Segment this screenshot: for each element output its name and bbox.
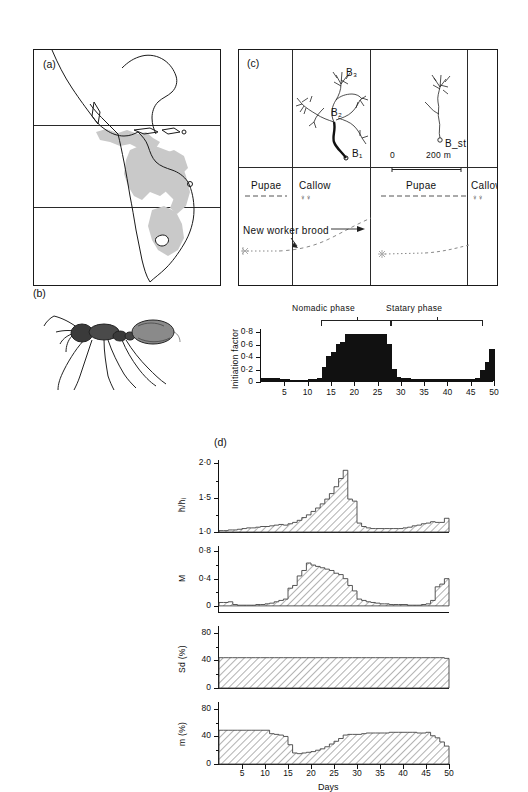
scale-bar-start: 0 bbox=[390, 150, 395, 160]
plot-area: 1·01·52·0h̄/h̄ᵢ bbox=[218, 460, 449, 533]
area-path bbox=[219, 658, 449, 688]
y-axis-tick-label: 0·4 bbox=[185, 573, 211, 583]
scale-bar-end: 200 m bbox=[426, 150, 451, 160]
x-axis-tick bbox=[284, 381, 285, 386]
y-axis-tick-label: 0·6 bbox=[227, 339, 253, 349]
x-axis-tick bbox=[471, 381, 472, 386]
panel-d-colony-metrics: (d) 1·01·52·0h̄/h̄ᵢ 00·40·8M 04080Sd (%)… bbox=[150, 440, 500, 770]
chart-m-percent: 040805101520253035404550Daysm (%) bbox=[218, 702, 448, 764]
x-axis-tick bbox=[494, 381, 495, 386]
y-axis-tick bbox=[214, 736, 219, 737]
x-axis-tick-label: 40 bbox=[437, 387, 457, 397]
y-axis-tick bbox=[214, 551, 219, 552]
y-axis-tick bbox=[256, 357, 261, 358]
raid-label-b3: B₃ bbox=[346, 67, 357, 78]
y-axis-tick-label: 80 bbox=[185, 627, 211, 637]
x-axis-label: Days bbox=[318, 782, 339, 792]
y-axis-label: h̄/h̄ᵢ bbox=[177, 497, 187, 511]
y-axis-tick bbox=[214, 463, 219, 464]
y-axis-tick bbox=[214, 688, 219, 689]
ant-drawing bbox=[38, 300, 188, 395]
nomadic-main-trail bbox=[333, 122, 346, 158]
initiation-factor-chart: Initiation factor 00·20·40·60·8510152025… bbox=[218, 303, 496, 403]
plot-area: 00·40·8M bbox=[218, 546, 449, 613]
x-axis-tick bbox=[354, 381, 355, 386]
x-axis-tick-label: 50 bbox=[484, 387, 504, 397]
x-axis-tick-label: 25 bbox=[368, 387, 388, 397]
y-axis-minor-tick bbox=[216, 723, 219, 724]
x-axis-tick bbox=[447, 381, 448, 386]
panel-a-tag: (a) bbox=[43, 58, 56, 70]
scale-bar-line bbox=[391, 166, 463, 173]
y-axis-tick bbox=[256, 345, 261, 346]
area-series bbox=[219, 460, 449, 532]
x-axis-tick-label: 30 bbox=[347, 768, 367, 778]
y-axis-minor-tick bbox=[216, 481, 219, 482]
y-axis-label: m (%) bbox=[177, 722, 187, 746]
x-axis-tick bbox=[378, 381, 379, 386]
y-axis-tick-label: 2·0 bbox=[185, 457, 211, 467]
map-geometry bbox=[34, 50, 220, 285]
y-axis-tick bbox=[214, 606, 219, 607]
y-axis-tick bbox=[214, 633, 219, 634]
raid-label-b1: B₁ bbox=[352, 148, 363, 159]
x-axis-tick-label: 35 bbox=[370, 768, 390, 778]
y-axis-tick bbox=[214, 579, 219, 580]
area-series bbox=[219, 702, 449, 764]
bracket-nub bbox=[357, 317, 358, 321]
y-axis-tick-label: 80 bbox=[185, 703, 211, 713]
nomadic-phase-label: Nomadic phase bbox=[292, 303, 355, 313]
chart-Sd-percent: 04080Sd (%) bbox=[218, 626, 448, 688]
x-axis-tick bbox=[401, 381, 402, 386]
panel-c-tag: (c) bbox=[247, 57, 259, 69]
plot-area: 040805101520253035404550Daysm (%) bbox=[218, 702, 449, 765]
statary-phase-bracket bbox=[390, 320, 483, 326]
y-axis-minor-tick bbox=[216, 592, 219, 593]
y-axis-tick-label: 0·2 bbox=[227, 364, 253, 374]
y-axis-tick bbox=[214, 764, 219, 765]
bracket-nub bbox=[437, 317, 438, 321]
y-axis-tick-label: 0 bbox=[185, 600, 211, 610]
y-axis-tick-label: 0·8 bbox=[185, 545, 211, 555]
area-path bbox=[219, 470, 449, 532]
y-axis-minor-tick bbox=[216, 647, 219, 648]
x-axis-tick-label: 30 bbox=[391, 387, 411, 397]
panel-b-ant-illustration: (b) bbox=[38, 300, 188, 395]
new-worker-brood-annotation: New worker brood bbox=[243, 225, 329, 236]
x-axis-tick-label: 5 bbox=[274, 387, 294, 397]
y-axis-tick bbox=[214, 709, 219, 710]
area-path bbox=[219, 730, 449, 764]
y-axis-label: M bbox=[177, 574, 187, 581]
x-axis-tick-label: 15 bbox=[321, 387, 341, 397]
x-axis-tick-label: 45 bbox=[416, 768, 436, 778]
raid-label-b2: B₂ bbox=[331, 107, 342, 118]
panel-c-raid-and-brood: (c) B₃ B₂ B₁ bbox=[238, 49, 498, 286]
y-axis-tick bbox=[256, 382, 261, 383]
y-axis-tick-label: 0·4 bbox=[227, 351, 253, 361]
x-axis-tick-label: 50 bbox=[439, 768, 459, 778]
x-axis-tick-label: 45 bbox=[461, 387, 481, 397]
x-axis-tick-label: 10 bbox=[255, 768, 275, 778]
panel-d-tag: (d) bbox=[214, 436, 227, 448]
chart-M-index: 00·40·8M bbox=[218, 546, 448, 612]
y-axis-minor-tick bbox=[216, 565, 219, 566]
y-axis-tick-label: 40 bbox=[185, 654, 211, 664]
x-axis-tick bbox=[308, 381, 309, 386]
plot-area: 04080Sd (%) bbox=[218, 626, 449, 689]
area-series bbox=[219, 546, 449, 612]
x-axis-tick-label: 20 bbox=[301, 768, 321, 778]
y-axis-tick-label: 1·0 bbox=[185, 526, 211, 536]
x-axis-tick bbox=[424, 381, 425, 386]
y-axis-tick bbox=[214, 660, 219, 661]
area-path bbox=[219, 563, 449, 606]
x-axis-tick-label: 20 bbox=[344, 387, 364, 397]
area-series bbox=[219, 626, 449, 688]
panel-a-distribution-map: (a) bbox=[33, 49, 221, 286]
panel-b-tag: (b) bbox=[33, 287, 46, 299]
y-axis-tick bbox=[214, 532, 219, 533]
statary-phase-label: Statary phase bbox=[386, 303, 442, 313]
y-axis-label: Sd (%) bbox=[177, 645, 187, 673]
y-axis-tick bbox=[256, 332, 261, 333]
y-axis-tick-label: 0·8 bbox=[227, 326, 253, 336]
